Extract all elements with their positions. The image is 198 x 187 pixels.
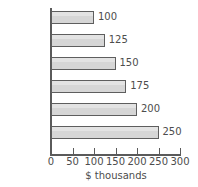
x-axis-title: $ thousands [51, 170, 181, 182]
x-axis-tick-label: 100 [84, 156, 103, 168]
x-axis-tick-label: 150 [106, 156, 125, 168]
bar-highlight [52, 35, 104, 39]
bar-chart: January100February125March150April175May… [0, 0, 198, 187]
x-axis-tick-label: 300 [170, 156, 189, 168]
x-axis-tick-label: 50 [66, 156, 79, 168]
bar [51, 57, 116, 70]
bar-value-label: 100 [98, 10, 117, 23]
bar-value-label: 150 [120, 56, 139, 69]
x-axis-tick [73, 148, 74, 155]
x-axis-tick-label: 200 [127, 156, 146, 168]
bar-value-label: 125 [109, 33, 128, 46]
bar-value-label: 175 [130, 79, 149, 92]
bar-highlight [52, 58, 115, 62]
x-axis-tick [116, 148, 117, 155]
bar-highlight [52, 104, 136, 108]
x-axis-tick [94, 148, 95, 155]
x-axis-tick-label: 250 [149, 156, 168, 168]
bar [51, 80, 126, 93]
bar-value-label: 250 [163, 125, 182, 138]
x-axis-tick [159, 148, 160, 155]
bar-highlight [52, 12, 93, 16]
bar [51, 34, 105, 47]
x-axis-tick [180, 148, 181, 155]
bar [51, 103, 137, 116]
bar-highlight [52, 127, 158, 131]
bar-value-label: 200 [141, 102, 160, 115]
x-axis-tick [137, 148, 138, 155]
x-axis-tick-label: 0 [48, 156, 54, 168]
bar [51, 126, 159, 139]
bar [51, 11, 94, 24]
x-axis-tick [51, 148, 52, 155]
bar-highlight [52, 81, 125, 85]
